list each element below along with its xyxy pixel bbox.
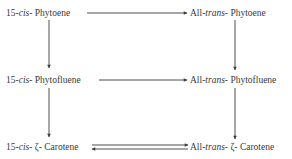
node-prefix: All- bbox=[190, 8, 205, 18]
node-prefix: All- bbox=[190, 75, 205, 85]
node-stereo: cis bbox=[19, 142, 30, 152]
node-stereo: trans bbox=[205, 75, 225, 85]
node-trans-phytofluene: All-trans- Phytofluene bbox=[190, 74, 276, 86]
node-prefix: 15- bbox=[6, 142, 19, 152]
node-cis-phytofluene: 15-cis- Phytofluene bbox=[6, 74, 81, 86]
node-trans-zeta-carotene: All-trans- ζ- Carotene bbox=[190, 141, 274, 153]
node-name: ζ- Carotene bbox=[35, 142, 79, 152]
node-stereo: trans bbox=[205, 8, 225, 18]
node-stereo: trans bbox=[205, 142, 225, 152]
node-trans-phytoene: All-trans- Phytoene bbox=[190, 7, 266, 19]
node-stereo: cis bbox=[19, 75, 30, 85]
node-name: Phytofluene bbox=[35, 75, 81, 85]
node-name: Phytoene bbox=[35, 8, 70, 18]
node-name: Phytoene bbox=[230, 8, 265, 18]
node-cis-zeta-carotene: 15-cis- ζ- Carotene bbox=[6, 141, 79, 153]
node-prefix: 15- bbox=[6, 8, 19, 18]
node-name: Phytofluene bbox=[230, 75, 276, 85]
node-prefix: 15- bbox=[6, 75, 19, 85]
node-name: ζ- Carotene bbox=[230, 142, 274, 152]
node-cis-phytoene: 15-cis- Phytoene bbox=[6, 7, 70, 19]
node-stereo: cis bbox=[19, 8, 30, 18]
node-prefix: All- bbox=[190, 142, 205, 152]
